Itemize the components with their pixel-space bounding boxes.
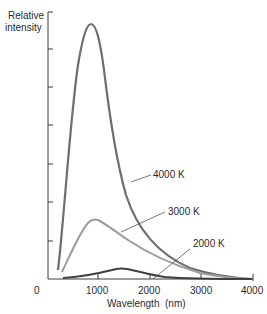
leader-2000k	[153, 249, 190, 279]
leader-4000k	[131, 175, 151, 182]
blackbody-chart: Relative intensity 4000 K 3000 K 2000 K …	[0, 0, 267, 314]
x-tick-label-0: 0	[34, 285, 40, 296]
y-axis-label-line1: Relative	[8, 10, 45, 21]
x-tick-label-1000: 1000	[86, 285, 109, 296]
label-4000k: 4000 K	[153, 169, 185, 180]
label-3000k: 3000 K	[168, 206, 200, 217]
x-tick-label-4000: 4000	[241, 285, 264, 296]
curve-3000k	[62, 219, 252, 279]
y-axis-label-line2: intensity	[5, 22, 42, 33]
x-tick-label-2000: 2000	[138, 285, 161, 296]
x-axis-label: Wavelength (nm)	[107, 298, 186, 309]
label-2000k: 2000 K	[193, 238, 225, 249]
x-tick-label-3000: 3000	[190, 285, 213, 296]
